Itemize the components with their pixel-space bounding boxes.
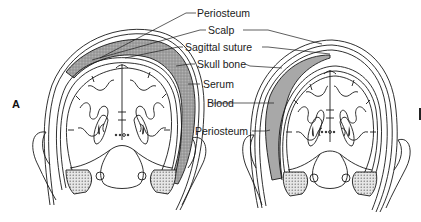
skull-base	[288, 151, 372, 170]
gyri-right	[334, 86, 368, 140]
serum-layer	[66, 39, 195, 184]
petrous-right	[150, 170, 176, 194]
label-periosteum-top: Periosteum	[197, 7, 250, 19]
ventricle-right	[340, 117, 354, 146]
label-serum: Serum	[203, 78, 234, 90]
petrous-right	[352, 172, 376, 196]
label-scalp: Scalp	[208, 24, 234, 36]
ventricle-left	[308, 117, 322, 146]
panel-b-head	[243, 40, 410, 212]
panel-a-head	[33, 29, 206, 210]
petrous-left	[283, 172, 307, 196]
label-blood: Blood	[207, 97, 234, 109]
label-skull-bone: Skull bone	[197, 58, 246, 70]
label-periosteum-bottom: Periosteum	[195, 125, 248, 137]
right-ear	[386, 139, 410, 208]
petrous-left	[66, 170, 92, 194]
blood-layer	[266, 55, 330, 180]
panel-letter-b-partial	[419, 108, 421, 120]
brain-outline	[66, 68, 171, 170]
label-sagittal-suture: Sagittal suture	[185, 41, 252, 53]
skull-base	[70, 146, 172, 169]
panel-letter-a: A	[12, 98, 20, 110]
